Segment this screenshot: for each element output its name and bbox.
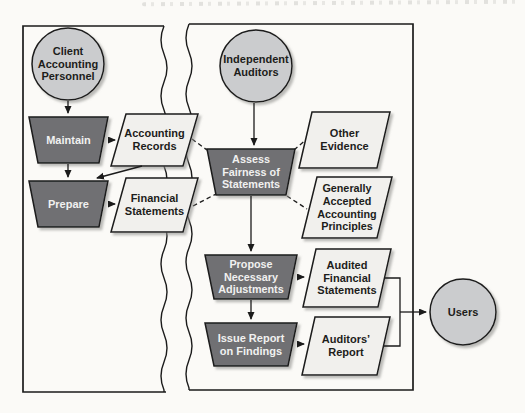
client-accounting-personnel-shape <box>32 28 104 100</box>
propose-adjustments-step-shape <box>205 255 297 299</box>
audit-process-figure: Client Accounting Personnel Independent … <box>0 0 525 413</box>
users-shape <box>430 279 496 345</box>
other-evidence-doc-shape <box>299 112 390 168</box>
auditors-report-doc-shape <box>302 317 390 375</box>
independent-auditors-shape <box>220 30 292 102</box>
arrow-records-to-prepare <box>97 166 142 178</box>
gaap-doc-shape <box>302 177 392 238</box>
maintain-step-shape <box>29 117 108 163</box>
issue-report-step-shape <box>205 323 297 366</box>
dashed-assess-to-gaap <box>287 196 307 209</box>
accounting-records-doc-shape <box>111 114 198 166</box>
assess-fairness-step-shape <box>207 149 295 195</box>
audited-financial-statements-doc-shape <box>303 249 391 307</box>
dashed-records-to-assess <box>192 139 207 150</box>
flowchart-canvas <box>0 0 525 413</box>
prepare-step-shape <box>29 181 108 227</box>
financial-statements-doc-shape <box>111 178 198 232</box>
dashed-statements-to-assess <box>193 194 216 206</box>
